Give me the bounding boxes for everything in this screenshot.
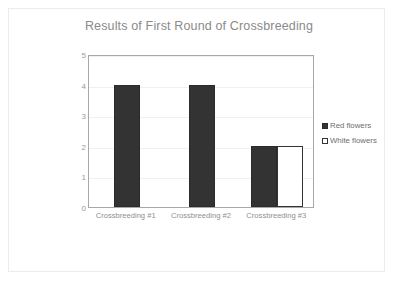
y-axis-tick-1: 1 — [64, 173, 86, 182]
legend-label: White flowers — [330, 136, 377, 145]
bar-group — [89, 56, 164, 207]
bar-white-flowers[interactable] — [277, 146, 303, 207]
legend-item-white-flowers[interactable]: White flowers — [322, 136, 395, 145]
bar-group — [164, 56, 239, 207]
legend-swatch-icon — [322, 138, 328, 144]
x-axis-label: Crossbreeding #3 — [239, 211, 314, 220]
bar-red-flowers[interactable] — [189, 85, 215, 207]
bars-layer — [89, 56, 313, 207]
legend-label: Red flowers — [330, 121, 371, 130]
y-axis-tick-0: 0 — [64, 204, 86, 213]
bar-red-flowers[interactable] — [251, 146, 277, 207]
y-axis: 012345 — [64, 49, 86, 214]
chart-legend: Red flowersWhite flowers — [322, 121, 395, 151]
y-axis-tick-4: 4 — [64, 81, 86, 90]
legend-item-red-flowers[interactable]: Red flowers — [322, 121, 395, 130]
y-axis-tick-5: 5 — [64, 51, 86, 60]
chart-card: Results of First Round of Crossbreeding … — [8, 8, 385, 272]
x-axis-label: Crossbreeding #1 — [88, 211, 163, 220]
x-axis-labels: Crossbreeding #1Crossbreeding #2Crossbre… — [88, 211, 314, 220]
legend-swatch-icon — [322, 123, 328, 129]
bar-group — [240, 56, 315, 207]
plot-area — [88, 55, 314, 208]
chart-title: Results of First Round of Crossbreeding — [49, 19, 349, 33]
y-axis-tick-3: 3 — [64, 112, 86, 121]
y-axis-tick-2: 2 — [64, 142, 86, 151]
bar-red-flowers[interactable] — [114, 85, 140, 207]
x-axis-label: Crossbreeding #2 — [163, 211, 238, 220]
